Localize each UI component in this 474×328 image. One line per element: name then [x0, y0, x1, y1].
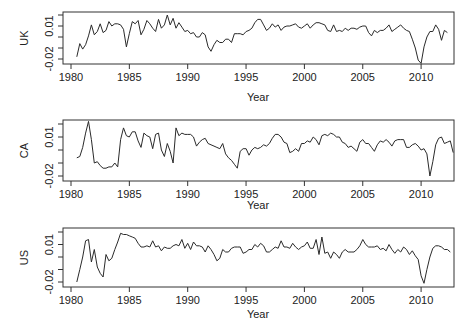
x-tick-label: 1980: [59, 71, 83, 83]
y-tick-label: 0.01: [43, 15, 55, 36]
panel-us: -0.020.01US1980198519901995200020052010Y…: [18, 228, 454, 320]
panel-ca: -0.020.01CA1980198519901995200020052010Y…: [18, 120, 454, 211]
x-tick-label: 2005: [351, 188, 375, 200]
x-tick-label: 1990: [175, 188, 199, 200]
x-axis-label: Year: [247, 91, 270, 103]
series-line-uk: [77, 15, 448, 63]
series-line-ca: [77, 121, 453, 176]
x-tick-label: 2005: [351, 294, 375, 306]
x-tick-label: 1990: [175, 71, 199, 83]
series-line-us: [77, 233, 451, 283]
y-tick-label: -0.02: [43, 163, 55, 188]
x-tick-label: 2000: [292, 71, 316, 83]
x-tick-label: 1980: [59, 188, 83, 200]
y-axis-label: UK: [18, 30, 30, 46]
y-tick-label: -0.02: [43, 269, 55, 294]
y-tick-label: 0.01: [43, 126, 55, 147]
x-tick-label: 2010: [409, 71, 433, 83]
y-tick-label: 0.01: [43, 234, 55, 255]
x-tick-label: 1995: [234, 71, 258, 83]
y-axis-label: CA: [18, 142, 30, 158]
x-tick-label: 1985: [117, 294, 141, 306]
x-tick-label: 1985: [117, 71, 141, 83]
x-tick-label: 2000: [292, 294, 316, 306]
x-tick-label: 2010: [409, 294, 433, 306]
plot-frame: [63, 228, 454, 287]
x-axis-label: Year: [247, 308, 270, 320]
x-axis-label: Year: [247, 199, 270, 211]
chart-figure: -0.020.01UK1980198519901995200020052010Y…: [0, 0, 474, 328]
panel-uk: -0.020.01UK1980198519901995200020052010Y…: [18, 12, 454, 103]
y-axis-label: US: [18, 250, 30, 265]
x-tick-label: 1995: [234, 294, 258, 306]
y-tick-label: -0.02: [43, 46, 55, 71]
plot-frame: [63, 120, 454, 181]
x-tick-label: 2010: [409, 188, 433, 200]
x-tick-label: 1980: [59, 294, 83, 306]
x-tick-label: 1985: [117, 188, 141, 200]
x-tick-label: 2000: [292, 188, 316, 200]
x-tick-label: 1990: [175, 294, 199, 306]
x-tick-label: 2005: [351, 71, 375, 83]
